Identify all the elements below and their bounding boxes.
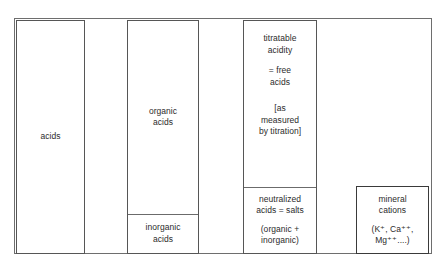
cell-inorganic-acids-label: inorganic acids xyxy=(146,222,181,245)
acid-classification-diagram: acids organic acids inorganic acids titr… xyxy=(0,0,441,268)
cell-inorganic-acids: inorganic acids xyxy=(128,214,198,253)
free-acids-label: = free acids xyxy=(269,65,291,88)
mineral-cations-formula: (K⁺, Ca⁺⁺, Mg⁺⁺....) xyxy=(372,224,414,247)
cell-organic-acids-label: organic acids xyxy=(149,106,177,129)
column-acids-split: organic acids inorganic acids xyxy=(127,20,199,254)
cell-organic-acids: organic acids xyxy=(128,21,198,214)
neutralized-acids-label: neutralized acids = salts xyxy=(256,194,304,217)
column-titratable-acidity: titratable acidity = free acids [as meas… xyxy=(243,20,317,254)
cell-mineral-cations: mineral cations (K⁺, Ca⁺⁺, Mg⁺⁺....) xyxy=(357,187,428,253)
measured-by-titration-note: [as measured by titration] xyxy=(259,103,301,138)
cell-free-acids: titratable acidity = free acids [as meas… xyxy=(244,21,316,187)
cell-acids: acids xyxy=(17,21,84,253)
column-mineral-cations: mineral cations (K⁺, Ca⁺⁺, Mg⁺⁺....) xyxy=(356,186,429,254)
cell-acids-label: acids xyxy=(40,131,60,143)
neutralized-acids-detail: (organic + inorganic) xyxy=(261,224,300,247)
mineral-cations-label: mineral cations xyxy=(378,194,406,217)
titratable-acidity-label: titratable acidity xyxy=(263,33,296,56)
column-acids: acids xyxy=(16,20,85,254)
cell-neutralized-acids: neutralized acids = salts (organic + ino… xyxy=(244,187,316,253)
